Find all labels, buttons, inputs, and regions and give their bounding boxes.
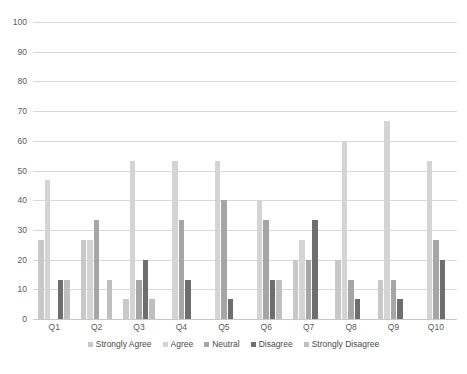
- x-tick-q5: Q5: [203, 320, 245, 334]
- bar-groups: [33, 22, 457, 319]
- x-tick-q8: Q8: [330, 320, 372, 334]
- bar: [440, 260, 446, 319]
- y-tick-0: 0: [22, 315, 27, 324]
- bar: [355, 299, 361, 319]
- y-tick-80: 80: [18, 77, 27, 86]
- legend-item-disagree[interactable]: Disagree: [251, 340, 293, 349]
- bar-group-q7: [287, 22, 329, 319]
- x-tick-q2: Q2: [75, 320, 117, 334]
- bar: [179, 220, 185, 319]
- legend-label: Neutral: [212, 340, 239, 349]
- y-tick-40: 40: [18, 196, 27, 205]
- bar: [427, 161, 433, 319]
- bar: [378, 280, 384, 320]
- bar-group-q8: [330, 22, 372, 319]
- x-tick-q3: Q3: [118, 320, 160, 334]
- legend-item-strongly-agree[interactable]: Strongly Agree: [88, 340, 152, 349]
- bar-group-q5: [203, 22, 245, 319]
- bar: [130, 161, 136, 319]
- bar: [149, 299, 155, 319]
- bar: [257, 200, 263, 319]
- y-tick-60: 60: [18, 137, 27, 146]
- bar: [348, 280, 354, 320]
- x-tick-q10: Q10: [415, 320, 457, 334]
- y-tick-100: 100: [13, 18, 27, 27]
- legend-label: Strongly Agree: [96, 340, 152, 349]
- bar: [397, 299, 403, 319]
- legend-label: Agree: [171, 340, 194, 349]
- bar-group-q2: [75, 22, 117, 319]
- bar: [299, 240, 305, 319]
- bar: [107, 280, 113, 320]
- x-tick-q9: Q9: [372, 320, 414, 334]
- bar: [94, 220, 100, 319]
- y-tick-90: 90: [18, 47, 27, 56]
- bar: [38, 240, 44, 319]
- bar: [172, 161, 178, 319]
- y-tick-70: 70: [18, 107, 27, 116]
- x-tick-q7: Q7: [287, 320, 329, 334]
- x-tick-q6: Q6: [245, 320, 287, 334]
- legend-swatch-icon: [88, 342, 93, 347]
- bar-group-q4: [160, 22, 202, 319]
- bar: [391, 280, 397, 320]
- x-tick-q1: Q1: [33, 320, 75, 334]
- bar: [221, 200, 227, 319]
- bar-group-q10: [415, 22, 457, 319]
- legend-item-neutral[interactable]: Neutral: [204, 340, 239, 349]
- bar: [270, 280, 276, 320]
- y-tick-10: 10: [18, 285, 27, 294]
- bar: [64, 280, 70, 320]
- bar: [123, 299, 129, 319]
- bar: [185, 280, 191, 320]
- legend-label: Disagree: [259, 340, 293, 349]
- bar: [228, 299, 234, 319]
- x-tick-q4: Q4: [160, 320, 202, 334]
- bar: [342, 141, 348, 319]
- bar: [433, 240, 439, 319]
- bar-group-q3: [118, 22, 160, 319]
- legend-swatch-icon: [251, 342, 256, 347]
- bar: [293, 260, 299, 319]
- plot-area: 1009080706050403020100: [33, 22, 457, 319]
- y-tick-50: 50: [18, 166, 27, 175]
- bar: [263, 220, 269, 319]
- bar: [143, 260, 149, 319]
- legend-item-agree[interactable]: Agree: [163, 340, 194, 349]
- bar: [335, 260, 341, 319]
- y-tick-30: 30: [18, 226, 27, 235]
- bar-group-q1: [33, 22, 75, 319]
- bar-group-q9: [372, 22, 414, 319]
- y-tick-20: 20: [18, 255, 27, 264]
- bar: [81, 240, 87, 319]
- bar: [45, 180, 51, 319]
- figure-caption: [4, 365, 304, 374]
- bar: [215, 161, 221, 319]
- bar: [306, 260, 312, 319]
- bar: [136, 280, 142, 320]
- bar: [276, 280, 282, 320]
- legend-swatch-icon: [204, 342, 209, 347]
- bar: [312, 220, 318, 319]
- chart-legend: Strongly AgreeAgreeNeutralDisagreeStrong…: [0, 340, 467, 349]
- legend-label: Strongly Disagree: [312, 340, 380, 349]
- bar-group-q6: [245, 22, 287, 319]
- legend-swatch-icon: [304, 342, 309, 347]
- bar: [384, 121, 390, 319]
- bar: [87, 240, 93, 319]
- bar: [58, 280, 64, 320]
- bar-chart-figure: 1009080706050403020100 Q1Q2Q3Q4Q5Q6Q7Q8Q…: [0, 0, 467, 374]
- legend-swatch-icon: [163, 342, 168, 347]
- x-axis-tick-labels: Q1Q2Q3Q4Q5Q6Q7Q8Q9Q10: [33, 320, 457, 334]
- legend-item-strongly-disagree[interactable]: Strongly Disagree: [304, 340, 380, 349]
